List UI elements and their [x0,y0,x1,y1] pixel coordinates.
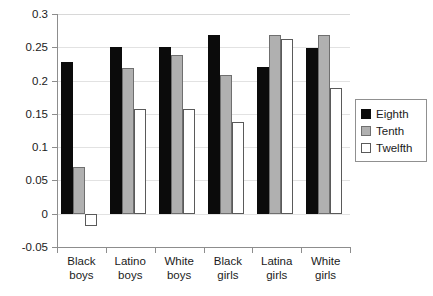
bar-tenth [171,55,183,213]
legend-swatch-twelfth-icon [361,143,371,153]
bar-eighth [257,67,269,213]
bar-eighth [208,35,220,213]
x-axis-tick-mark [350,248,351,253]
bar-group [61,14,97,247]
bar-tenth [269,35,281,213]
y-axis-tick-mark [52,180,57,181]
category-label-line: girls [295,269,357,283]
bar-twelfth [232,122,244,214]
bar-twelfth [183,109,195,214]
y-axis-tick-label: 0.2 [0,75,48,87]
bar-eighth [306,48,318,214]
legend-label-twelfth: Twelfth [376,142,412,154]
bar-eighth [159,47,171,213]
x-axis-tick-mark [106,248,107,253]
legend-label-eighth: Eighth [376,108,409,120]
bar-chart: 0.30.250.20.150.10.050-0.05 BlackboysLat… [0,0,433,296]
x-axis-tick-mark [204,248,205,253]
x-axis-tick-mark [301,248,302,253]
x-axis-tick-mark [155,248,156,253]
y-axis-tick-label: 0.25 [0,41,48,53]
legend-swatch-eighth-icon [361,109,371,119]
y-axis-tick-mark [52,14,57,15]
x-axis-tick-mark [57,248,58,253]
bar-twelfth [330,88,342,214]
y-axis-tick-label: 0 [0,208,48,220]
bar-tenth [318,35,330,213]
legend-item-twelfth: Twelfth [361,139,421,156]
y-axis-tick-mark [52,81,57,82]
bar-twelfth [281,39,293,213]
bar-twelfth [85,214,97,227]
y-axis-tick-label: 0.15 [0,108,48,120]
bar-tenth [122,68,134,214]
legend-item-eighth: Eighth [361,105,421,122]
y-axis-tick-label: -0.05 [0,241,48,253]
chart-legend: Eighth Tenth Twelfth [355,99,427,162]
bar-tenth [73,167,85,214]
y-axis-tick-mark [52,214,57,215]
x-axis-category-label: Whitegirls [295,255,357,282]
y-axis-tick-mark [52,47,57,48]
bar-eighth [110,47,122,213]
bar-tenth [220,75,232,214]
y-axis-tick-label: 0.1 [0,141,48,153]
y-axis-tick-label: 0.05 [0,174,48,186]
legend-label-tenth: Tenth [376,125,404,137]
bar-eighth [61,62,73,214]
y-axis-tick-label: 0.3 [0,8,48,20]
y-axis-line [57,14,58,248]
legend-item-tenth: Tenth [361,122,421,139]
y-axis-tick-mark [52,114,57,115]
bar-twelfth [134,109,146,214]
category-label-line: White [295,255,357,269]
bar-group [257,14,293,247]
bar-group [306,14,342,247]
legend-swatch-tenth-icon [361,126,371,136]
bar-group [110,14,146,247]
y-axis-tick-mark [52,147,57,148]
x-axis-tick-mark [252,248,253,253]
bar-group [208,14,244,247]
bar-group [159,14,195,247]
